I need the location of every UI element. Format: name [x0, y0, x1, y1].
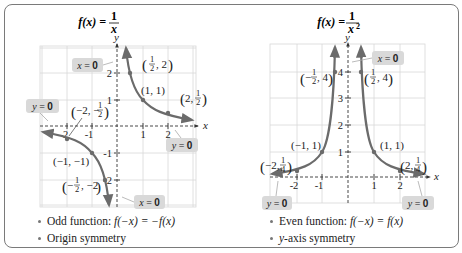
svg-text:−: −	[67, 179, 73, 191]
right-title: f(x) = 1 x 2	[317, 9, 360, 36]
svg-text:-1: -1	[315, 180, 324, 191]
bullet-dot-icon	[270, 237, 273, 240]
svg-text:-1: -1	[103, 148, 112, 159]
right-bullet-even: Even function: f(−x) = f(x)	[270, 213, 403, 230]
right-bullets: Even function: f(−x) = f(x) y-axis symme…	[270, 213, 403, 247]
svg-text:3: 3	[338, 93, 343, 104]
left-asymptote-label-y-left: y = 0	[26, 99, 59, 121]
svg-text:): )	[96, 179, 101, 196]
svg-text:x = 0: x = 0	[377, 53, 399, 64]
right-title-prefix: f(x) =	[317, 15, 345, 29]
svg-text:): )	[202, 91, 207, 108]
left-label-neghalf-neg2: ( − 1 2 , −2 )	[62, 175, 101, 196]
svg-text:2: 2	[371, 76, 375, 86]
right-axes: x y	[270, 31, 439, 203]
right-y-label: y	[344, 31, 350, 43]
svg-text:(: (	[142, 57, 147, 74]
svg-text:): )	[328, 71, 333, 88]
right-title-numerator: 1	[349, 9, 355, 23]
svg-text:2: 2	[196, 97, 200, 107]
left-label-1-1: (1, 1)	[141, 84, 165, 97]
svg-text:2: 2	[75, 184, 79, 194]
right-label-neg1-1: (−1, 1)	[291, 139, 321, 152]
right-bullet-yaxis: y-axis symmetry	[270, 230, 403, 247]
left-bullet-origin: Origin symmetry	[38, 230, 175, 247]
right-asymptote-label-y-right: y = 0	[402, 181, 434, 210]
svg-text:−2,: −2,	[265, 159, 280, 171]
svg-text:−2, −: −2, −	[76, 104, 99, 116]
bullet-dot-icon	[38, 237, 41, 240]
svg-text:(: (	[364, 71, 369, 88]
left-label-neg1-neg1: (−1, −1)	[53, 155, 90, 168]
svg-text:2: 2	[98, 109, 102, 119]
left-bullets: Odd function: f(−x) = −f(x) Origin symme…	[38, 213, 175, 247]
right-x-label: x	[433, 170, 439, 182]
svg-text:1: 1	[338, 147, 343, 158]
svg-text:2,: 2,	[405, 159, 414, 171]
svg-text:2: 2	[150, 63, 154, 73]
svg-text:2: 2	[312, 76, 316, 86]
left-title-numerator: 1	[111, 9, 117, 23]
left-y-label: y	[113, 31, 119, 43]
svg-text:1: 1	[371, 180, 376, 191]
bullet-dot-icon	[270, 220, 273, 223]
left-x-label: x	[202, 119, 208, 131]
svg-text:): )	[388, 71, 393, 88]
svg-text:2,: 2,	[185, 92, 194, 104]
svg-text:y = 0: y = 0	[407, 198, 429, 209]
left-label-2-half: ( 2, 1 2 )	[180, 88, 207, 108]
svg-text:-2: -2	[290, 180, 299, 191]
left-title: f(x) = 1 x	[78, 9, 119, 36]
right-title-exponent: 2	[356, 22, 360, 31]
right-label-1-1: (1, 1)	[380, 139, 404, 152]
svg-text:y = 0: y = 0	[266, 198, 288, 209]
svg-text:-1: -1	[85, 129, 94, 140]
svg-text:y = 0: y = 0	[31, 101, 53, 112]
svg-text:x = 0: x = 0	[76, 60, 98, 71]
right-asymptote-label-y-left: y = 0	[262, 181, 292, 210]
right-label-neghalf-4: ( − 1 2 , 4 )	[300, 67, 333, 88]
svg-text:y = 0: y = 0	[171, 140, 193, 151]
svg-text:, 2: , 2	[156, 58, 167, 70]
left-bullet-odd: Odd function: f(−x) = −f(x)	[38, 213, 175, 230]
right-point-labels: ( − 1 2 , 4 ) ( 1 2 , 4 ) (−1, 1) (1, 1)	[260, 67, 427, 176]
svg-text:): )	[422, 159, 427, 176]
left-title-prefix: f(x) =	[78, 15, 106, 29]
right-label-half-4: ( 1 2 , 4 )	[364, 67, 393, 88]
right-tick-labels: -2 -1 1 2 4 3 2 1	[290, 67, 403, 191]
right-graph: f(x) = 1 x 2 x y	[260, 9, 439, 210]
svg-text:): )	[168, 57, 173, 74]
svg-text:): )	[287, 159, 292, 176]
svg-text:, 4: , 4	[377, 71, 389, 83]
svg-text:2: 2	[338, 120, 343, 131]
svg-text:2: 2	[107, 68, 112, 79]
svg-text:1: 1	[140, 129, 145, 140]
left-label-neg2-neghalf: ( −2, − 1 2 )	[71, 100, 109, 121]
svg-text:−: −	[305, 71, 311, 83]
svg-text:2: 2	[397, 180, 402, 191]
svg-text:4: 4	[338, 67, 344, 78]
svg-text:, 4: , 4	[317, 71, 329, 83]
right-asymptote-label-x-top: x = 0	[352, 51, 404, 65]
left-graph: f(x) = 1 x x y	[26, 9, 208, 209]
left-label-half-2: ( 1 2 , 2 )	[142, 54, 173, 74]
bullet-dot-icon	[38, 220, 41, 223]
svg-text:x = 0: x = 0	[138, 197, 160, 208]
svg-text:): )	[104, 104, 109, 121]
